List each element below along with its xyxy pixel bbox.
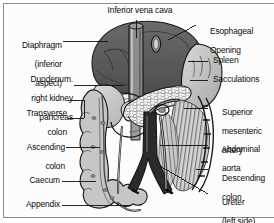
label-ureter-line1: Ureter	[222, 197, 245, 207]
anatomy-figure: Inferior vena cava Diaphragm (inferior a…	[0, 0, 274, 223]
label-descending-colon-line1: Descending	[222, 173, 265, 183]
label-duodenum-line1: Duodenum.	[31, 74, 73, 84]
label-caecum: Caecum	[2, 176, 60, 186]
label-spleen: Spleen	[213, 56, 274, 66]
label-esophageal-opening-line1: Esophageal	[210, 26, 253, 36]
label-sma-line1: Superior	[222, 107, 253, 117]
label-transverse-colon-line1: Transverse	[26, 108, 67, 118]
label-abdominal-aorta-line1: Abdominal	[221, 144, 260, 154]
label-ureter-left-side: Ureter (left side)	[213, 188, 274, 223]
label-inferior-vena-cava: Inferior vena cava	[82, 6, 198, 16]
label-diaphragm-line1: Diaphragm	[22, 40, 62, 50]
label-appendix: Appendix	[2, 200, 60, 210]
label-sacculations: Sacculations	[213, 75, 274, 85]
label-ureter-line2: (left side)	[222, 216, 255, 223]
label-ascending-colon-line1: Ascending	[27, 142, 65, 152]
label-esophageal-opening-line2: Opening	[210, 45, 241, 55]
label-ascending-colon: Ascending colon	[2, 133, 65, 181]
label-ascending-colon-line2: colon	[45, 161, 65, 171]
